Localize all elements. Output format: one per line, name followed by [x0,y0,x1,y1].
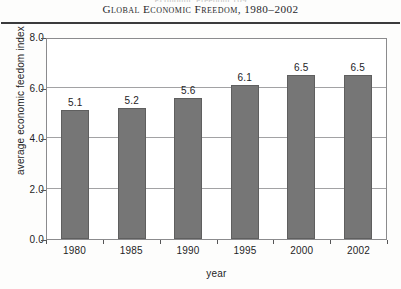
bar[interactable] [174,98,202,239]
y-axis-tick-mark [41,139,46,140]
bar-category-1990: 5.6 [160,39,217,239]
scan-running-head: Economic Freedom 109 [0,0,401,2]
x-axis-title: year [46,268,387,279]
bar[interactable] [231,85,259,239]
bar-series: 5.15.25.66.16.56.5 [47,39,386,239]
bar-category-2002: 6.5 [330,39,387,239]
bar-category-2000: 6.5 [273,39,330,239]
bar-value-label: 5.2 [112,95,152,106]
x-axis-tick-label: 1995 [216,245,273,256]
chart-plot-area: 5.15.25.66.16.56.5 [46,38,387,240]
x-axis-tick-mark [217,240,218,244]
x-axis-tick-mark [103,240,104,244]
x-axis-tick-label: 2000 [273,245,330,256]
bar[interactable] [344,75,372,239]
x-axis-tick-mark [273,240,274,244]
figure-title: Global Economic Freedom, 1980–2002 [0,3,401,15]
x-axis-tick-mark [387,240,388,244]
x-axis-tick-mark [160,240,161,244]
x-axis-tick-mark [330,240,331,244]
title-rule [1,22,400,24]
bar-value-label: 5.6 [168,85,208,96]
x-axis-tick-label: 2002 [330,245,387,256]
bar-value-label: 6.5 [338,62,378,73]
y-axis-tick-label: 0.0 [12,234,44,245]
y-axis-tick-mark [41,38,46,39]
bar-category-1985: 5.2 [104,39,161,239]
bar-category-1980: 5.1 [47,39,104,239]
bar-value-label: 5.1 [55,97,95,108]
bar-category-1995: 6.1 [217,39,274,239]
bar[interactable] [118,108,146,239]
figure-page: Economic Freedom 109 Global Economic Fre… [0,0,401,289]
bar[interactable] [287,75,315,239]
x-axis-labels: 198019851990199520002002 [46,245,387,256]
y-axis-tick-mark [41,190,46,191]
x-axis-tick-mark [46,240,47,244]
x-axis-tick-label: 1990 [160,245,217,256]
bar-value-label: 6.5 [281,62,321,73]
bar[interactable] [61,110,89,239]
x-axis-tick-label: 1980 [46,245,103,256]
y-axis-title: average economic feedom index [15,11,26,191]
x-axis-tick-label: 1985 [103,245,160,256]
bar-value-label: 6.1 [225,72,265,83]
y-axis-tick-mark [41,89,46,90]
